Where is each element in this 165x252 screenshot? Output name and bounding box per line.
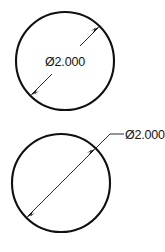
drawing-background bbox=[0, 0, 165, 252]
engineering-drawing-canvas: Ø2.000 Ø2.000 bbox=[0, 0, 165, 252]
top-diameter-label: Ø2.000 bbox=[45, 55, 85, 69]
bottom-diameter-label: Ø2.000 bbox=[125, 128, 165, 142]
